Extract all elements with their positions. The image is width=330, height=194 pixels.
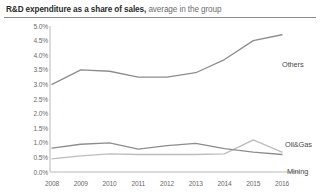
x-tick-label: 2009 <box>66 180 96 188</box>
x-tick-label: 2012 <box>152 180 182 188</box>
series-label-oilgas: Oil&Gas <box>285 140 312 149</box>
series-label-others: Others <box>282 60 304 69</box>
x-tick-label: 2010 <box>95 180 125 188</box>
x-tick-label: 2014 <box>210 180 240 188</box>
series-line-oil-gas <box>52 140 282 159</box>
chart-card: R&D expenditure as a share of sales, ave… <box>0 0 330 194</box>
chart-title: R&D expenditure as a share of sales, ave… <box>6 4 324 18</box>
x-tick-label: 2016 <box>267 180 297 188</box>
chart-svg <box>0 20 330 194</box>
x-tick-label: 2011 <box>123 180 153 188</box>
x-tick-label: 2015 <box>238 180 268 188</box>
title-divider <box>4 17 316 18</box>
x-tick-label: 2013 <box>181 180 211 188</box>
chart-title-subtitle: average in the group <box>146 5 221 14</box>
plot-area <box>0 20 330 194</box>
chart-title-main: R&D expenditure as a share of sales, <box>6 5 146 14</box>
series-label-mining: Mining <box>287 167 308 176</box>
x-tick-label: 2008 <box>37 180 67 188</box>
series-lines <box>52 35 282 159</box>
series-line-others <box>52 35 282 85</box>
series-line-mining <box>52 143 282 155</box>
x-axis: 200820092010201120122013201420152016 <box>0 180 330 194</box>
